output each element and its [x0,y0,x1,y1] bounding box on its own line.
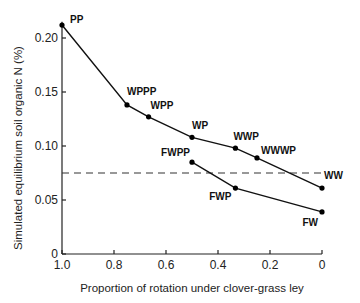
x-axis-label: Proportion of rotation under clover-gras… [80,282,304,294]
data-point [254,155,259,160]
chart: 1.00.80.60.40.2000.050.100.150.20 PPWPPP… [0,0,360,303]
point-label: WWP [233,131,259,142]
point-label: WW [324,170,343,181]
point-label: FWP [209,191,232,202]
point-label: WPP [151,100,174,111]
point-label: FWPP [161,147,190,158]
data-point [146,114,151,119]
x-tick-label: 0.4 [210,258,227,272]
x-tick-label: 0.2 [262,258,279,272]
y-tick-label: 0.05 [35,193,59,207]
point-label: WPPP [127,86,157,97]
data-point [233,146,238,151]
data-point [319,186,324,191]
y-tick-label: 0.15 [35,85,59,99]
data-point [233,186,238,191]
point-label: WWWP [261,145,296,156]
series-line [192,162,322,212]
data-point [59,22,64,27]
data-point [319,209,324,214]
point-label: WP [192,120,208,131]
y-tick-label: 0.10 [35,139,59,153]
data-point [189,160,194,165]
y-axis-label: Simulated equilibrium soil organic N (%) [12,46,24,250]
point-label: FW [302,217,318,228]
series: PPWPPPWPPWPWWPWWWPWWFWPPFWPFW [59,14,343,228]
data-point [124,102,129,107]
x-tick-label: 0 [319,258,326,272]
point-label: PP [70,14,84,25]
x-tick-label: 0.8 [106,258,123,272]
data-point [189,135,194,140]
y-tick-label: 0.20 [35,31,59,45]
y-tick-label: 0 [51,247,58,261]
x-tick-label: 0.6 [158,258,175,272]
